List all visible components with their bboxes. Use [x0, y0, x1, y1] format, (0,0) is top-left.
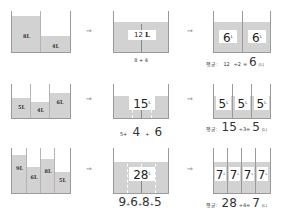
arrow-icon: ⇒	[187, 165, 193, 173]
equal-part: 5L	[254, 96, 269, 110]
amount-label: 5L	[12, 104, 31, 110]
amount-label: 4L	[31, 107, 50, 113]
row1-original-tanks: 8L 4L	[11, 11, 71, 53]
row2-equal-tanks: 5L 5L 5L	[213, 84, 271, 119]
tank-8l: 8L	[41, 148, 55, 193]
row2-combined-tank: 15L	[113, 84, 169, 119]
tank-5l: 5L	[12, 84, 31, 118]
tank-4l: 4L	[31, 84, 50, 118]
average-formula: 평균: 28 ÷4= 7 (L)	[206, 196, 267, 210]
equal-part: 7L	[215, 167, 226, 181]
equal-part: 7L	[257, 167, 268, 181]
arrow-icon: ⇒	[187, 27, 193, 35]
average-formula: 평균: 12 ÷2 = 6 (L)	[206, 55, 264, 69]
amount-label: 4L	[41, 43, 70, 49]
average-formula: 평균: 15 ÷3= 5 (L)	[206, 120, 267, 134]
amount-label: 8L	[12, 33, 41, 39]
row1-equal-tanks: 6L 6L	[213, 11, 271, 53]
tank-4l: 4L	[41, 11, 70, 52]
sum-expression: 9+6+8+5	[104, 195, 176, 209]
total-label: 15L	[129, 96, 155, 110]
equal-part: 5L	[235, 96, 250, 110]
equal-part: 7L	[229, 167, 240, 181]
equal-part: 6L	[219, 30, 237, 43]
equal-part: 7L	[243, 167, 254, 181]
amount-label: 8L	[41, 168, 55, 174]
row3-original-tanks: 9L 6L 8L 5L	[11, 148, 71, 194]
amount-label: 9L	[12, 165, 27, 171]
amount-label: 6L	[50, 99, 70, 105]
total-label: 28L	[129, 167, 155, 181]
row3-combined-tank: 28L	[113, 148, 169, 194]
tank-6l: 6L	[27, 148, 41, 193]
arrow-icon: ⇒	[86, 95, 92, 103]
sum-expression: 8 + 4	[113, 57, 169, 63]
tank-9l: 9L	[12, 148, 27, 193]
row3-equal-tanks: 7L 7L 7L 7L	[213, 148, 271, 194]
equal-part: 6L	[248, 30, 266, 43]
sum-expression: 5+ 4 + 6	[113, 121, 169, 140]
tank-8l: 8L	[12, 11, 41, 52]
amount-label: 5L	[55, 177, 70, 183]
tank-6l: 6L	[50, 84, 70, 118]
amount-label: 6L	[27, 174, 41, 180]
total-label: 12 L	[128, 30, 156, 40]
row1-combined-tank: 12 L	[113, 11, 169, 53]
arrow-icon: ⇒	[86, 165, 92, 173]
arrow-icon: ⇒	[86, 27, 92, 35]
tank-5l: 5L	[55, 148, 70, 193]
row2-original-tanks: 5L 4L 6L	[11, 84, 71, 119]
equal-part: 5L	[216, 96, 231, 110]
arrow-icon: ⇒	[187, 95, 193, 103]
